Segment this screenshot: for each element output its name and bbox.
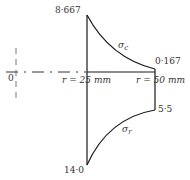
inner-radius-label: r = 25 mm xyxy=(62,75,111,85)
hoop-subscript: c xyxy=(124,44,128,52)
origin-label: 0 xyxy=(8,73,14,83)
radial-outer-value: 5·5 xyxy=(158,104,172,114)
hoop-inner-value: 8·667 xyxy=(55,5,81,15)
radial-stress-curve xyxy=(87,110,155,165)
radial-inner-value: 14·0 xyxy=(64,165,84,175)
outer-radius-label: r = 50 mm xyxy=(136,75,185,85)
radial-stress-label: σr xyxy=(122,124,132,135)
hoop-outer-value: 0·167 xyxy=(155,56,181,66)
stress-diagram xyxy=(0,0,190,180)
hoop-stress-label: σc xyxy=(118,40,128,51)
radial-subscript: r xyxy=(128,128,131,136)
